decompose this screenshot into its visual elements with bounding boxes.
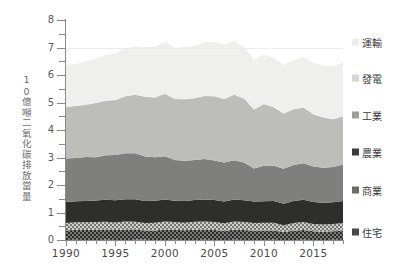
stacked-area-svg xyxy=(66,20,343,240)
y-axis-tick-labels: 876543210 xyxy=(36,0,54,272)
y-tick-label-5: 5 xyxy=(40,97,54,108)
x-tick-mark-1999 xyxy=(155,240,156,244)
y-tick-mark-1 xyxy=(57,213,65,214)
x-tick-mark-1995 xyxy=(115,240,116,246)
x-tick-mark-2001 xyxy=(175,240,176,244)
y-tick-mark-3 xyxy=(57,158,65,159)
y-axis-title: 10億噸二氧化碳排放當量 xyxy=(10,68,32,208)
legend-item-住宅[interactable]: 住宅 xyxy=(352,225,383,240)
legend-swatch-icon xyxy=(352,39,359,46)
x-tick-mark-2002 xyxy=(185,240,186,244)
legend-swatch-icon xyxy=(352,187,359,194)
legend-item-工業[interactable]: 工業 xyxy=(352,108,383,123)
y-minor-tick xyxy=(59,171,65,172)
y-tick-mark-8 xyxy=(57,20,65,21)
y-tick-label-7: 7 xyxy=(40,42,54,53)
area-series-農業 xyxy=(66,199,343,225)
y-minor-tick xyxy=(59,116,65,117)
x-tick-mark-1992 xyxy=(86,240,87,244)
y-minor-tick xyxy=(59,34,65,35)
x-tick-label-2000: 2000 xyxy=(151,247,179,259)
x-tick-label-1995: 1995 xyxy=(101,247,129,259)
y-tick-mark-2 xyxy=(57,185,65,186)
legend-label: 住宅 xyxy=(362,225,383,240)
x-tick-mark-2003 xyxy=(195,240,196,244)
x-tick-mark-1998 xyxy=(145,240,146,244)
y-tick-label-1: 1 xyxy=(40,207,54,218)
x-tick-mark-1997 xyxy=(135,240,136,244)
x-tick-mark-1993 xyxy=(96,240,97,244)
y-minor-tick xyxy=(59,89,65,90)
legend-label: 農業 xyxy=(362,145,383,160)
y-tick-label-8: 8 xyxy=(40,14,54,25)
x-tick-mark-1996 xyxy=(125,240,126,244)
x-tick-mark-2010 xyxy=(264,240,265,246)
legend-item-商業[interactable]: 商業 xyxy=(352,183,383,198)
x-tick-mark-2011 xyxy=(274,240,275,244)
chart-root: 10億噸二氧化碳排放當量 876543210 19901995200020052… xyxy=(0,0,399,272)
legend-swatch-icon xyxy=(352,149,359,156)
y-minor-tick xyxy=(59,199,65,200)
x-axis-tick-labels: 199019952000200520102015 xyxy=(0,247,399,265)
x-tick-mark-2009 xyxy=(254,240,255,244)
y-tick-label-6: 6 xyxy=(40,69,54,80)
y-tick-mark-0 xyxy=(57,240,65,241)
x-tick-mark-2018 xyxy=(343,240,344,244)
faint-gridline-7 xyxy=(66,48,343,49)
x-tick-mark-1994 xyxy=(106,240,107,244)
x-tick-label-1990: 1990 xyxy=(52,247,80,259)
x-tick-mark-1991 xyxy=(76,240,77,244)
legend-item-運輸[interactable]: 運輸 xyxy=(352,35,383,50)
x-tick-mark-2006 xyxy=(224,240,225,244)
y-tick-mark-7 xyxy=(57,48,65,49)
legend-item-農業[interactable]: 農業 xyxy=(352,145,383,160)
x-tick-mark-2000 xyxy=(165,240,166,246)
y-minor-tick xyxy=(59,144,65,145)
x-tick-mark-2013 xyxy=(294,240,295,244)
y-tick-label-2: 2 xyxy=(40,179,54,190)
legend: 運輸發電工業農業商業住宅 xyxy=(352,0,399,272)
x-tick-mark-2014 xyxy=(303,240,304,244)
y-minor-tick xyxy=(59,61,65,62)
x-tick-mark-2008 xyxy=(244,240,245,244)
y-minor-tick xyxy=(59,226,65,227)
x-tick-mark-2015 xyxy=(313,240,314,246)
x-tick-mark-2007 xyxy=(234,240,235,244)
y-tick-mark-5 xyxy=(57,103,65,104)
x-tick-mark-2012 xyxy=(284,240,285,244)
x-tick-mark-1990 xyxy=(66,240,67,246)
plot-area xyxy=(66,20,343,240)
y-tick-label-4: 4 xyxy=(40,124,54,135)
x-tick-label-2015: 2015 xyxy=(299,247,327,259)
y-tick-mark-4 xyxy=(57,130,65,131)
legend-swatch-icon xyxy=(352,229,359,236)
x-tick-mark-2016 xyxy=(323,240,324,244)
area-series-住宅 xyxy=(66,230,343,241)
legend-label: 商業 xyxy=(362,183,383,198)
legend-item-發電[interactable]: 發電 xyxy=(352,71,383,86)
legend-swatch-icon xyxy=(352,112,359,119)
x-tick-label-2005: 2005 xyxy=(200,247,228,259)
x-tick-mark-2005 xyxy=(214,240,215,246)
legend-swatch-icon xyxy=(352,75,359,82)
x-tick-mark-2004 xyxy=(205,240,206,244)
legend-label: 發電 xyxy=(362,71,383,86)
y-tick-label-3: 3 xyxy=(40,152,54,163)
legend-label: 工業 xyxy=(362,108,383,123)
x-tick-label-2010: 2010 xyxy=(250,247,278,259)
y-tick-mark-6 xyxy=(57,75,65,76)
legend-label: 運輸 xyxy=(362,35,383,50)
x-tick-mark-2017 xyxy=(333,240,334,244)
